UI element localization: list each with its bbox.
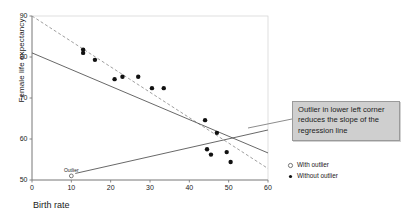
outlier-data-point [69,174,73,178]
data-point [209,152,213,156]
data-point [225,150,229,154]
legend-item-with-outlier: With outlier [284,160,338,171]
data-point [150,86,154,90]
open-circle-icon [284,162,296,169]
data-point [112,77,116,81]
y-axis-label: Female life expectancy [17,0,26,126]
data-point [120,74,124,78]
regression-without-outlier [32,16,268,169]
legend-item-without-outlier: Without outlier [284,171,338,182]
x-tick-label: 10 [67,184,75,191]
callout-leader-line [248,119,292,128]
outlier-point-label: Outlier [64,167,79,173]
outlier-callout-box: Outlier in lower left corner reduces the… [292,101,400,141]
chart-legend: With outlier Without outlier [284,160,338,182]
y-tick-label: 60 [20,135,28,142]
outlier-callout-text: Outlier in lower left corner reduces the… [298,105,385,135]
chart-root: 50607080900102030405060Outlier Female li… [0,0,404,218]
x-tick-label: 60 [264,184,272,191]
data-point [93,58,97,62]
data-point [205,147,209,151]
x-tick-label: 0 [30,184,34,191]
data-point [228,160,232,164]
legend-label-with-outlier: With outlier [296,162,329,168]
outlier-leader-line [75,130,268,173]
data-point [215,131,219,135]
x-tick-label: 30 [146,184,154,191]
x-tick-label: 40 [185,184,193,191]
x-tick-label: 20 [107,184,115,191]
x-axis-label: Birth rate [33,200,70,210]
data-point [162,86,166,90]
data-point [136,74,140,78]
data-point [81,51,85,55]
legend-label-without-outlier: Without outlier [296,173,338,179]
data-point [203,118,207,122]
plot-frame [32,16,268,180]
filled-circle-icon [284,173,296,180]
x-tick-label: 50 [225,184,233,191]
y-tick-label: 50 [20,176,28,183]
